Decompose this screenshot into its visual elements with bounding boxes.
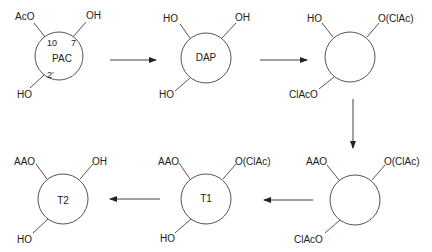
bond-top-left [34,23,45,37]
molecule-intermediate-1: HO O(ClAc) ClAcO [289,13,414,100]
substituent-top-left: AcO [15,11,35,22]
bond-top-left [322,23,333,37]
position-label: 10 [47,38,57,48]
bond-bottom-left [175,219,191,233]
bond-top-left [179,163,190,179]
substituent-top-right: O(ClAc) [384,156,420,167]
substituent-top-left: AAO [306,156,327,167]
molecule-label: PAC [52,53,72,64]
substituent-top-right: OH [86,10,101,21]
molecule-label: T1 [200,193,212,204]
molecule-label: DAP [196,52,217,63]
molecule-t2: AAO OH HO T2 [14,156,107,245]
bond-bottom-left [325,220,340,233]
bond-top-right [222,23,236,38]
bond-top-left [36,164,47,179]
molecule-t1: AAO O(ClAc) HO T1 [158,156,271,244]
substituent-top-right: O(ClAc) [235,156,271,167]
bond-bottom-left [175,78,190,91]
bond-bottom-left [33,219,48,233]
substituent-top-left: HO [163,13,178,24]
bond-top-right [73,22,86,37]
reaction-scheme: AcO OH HO 10 7 2′ PAC HO OH HO DAP HO O(… [0,0,432,252]
substituent-top-right: OH [92,156,107,167]
molecule-pac: AcO OH HO 10 7 2′ PAC [15,10,101,100]
ring-intermediate-1 [325,32,375,82]
molecule-label: T2 [57,195,69,206]
substituent-bottom-left: HO [17,89,32,100]
ring-intermediate-2 [330,175,380,225]
substituent-bottom-left: HO [159,89,174,100]
substituent-top-left: HO [307,13,322,24]
substituent-bottom-left: HO [160,233,175,244]
substituent-top-left: AAO [14,156,35,167]
substituent-top-right: O(ClAc) [378,13,414,24]
substituent-top-right: OH [235,12,250,23]
bond-bottom-left [319,77,334,89]
substituent-bottom-left: ClAcO [294,234,323,245]
bond-top-right [367,23,379,37]
bond-top-right [372,165,385,180]
bond-bottom-left [30,75,44,88]
molecule-dap: HO OH HO DAP [159,12,250,100]
substituent-bottom-left: ClAcO [289,89,318,100]
substituent-top-left: AAO [158,156,179,167]
bond-top-left [180,24,190,38]
position-label: 2′ [47,70,54,80]
bond-top-left [327,165,339,180]
substituent-bottom-left: HO [17,234,32,245]
position-label: 7 [71,38,76,48]
